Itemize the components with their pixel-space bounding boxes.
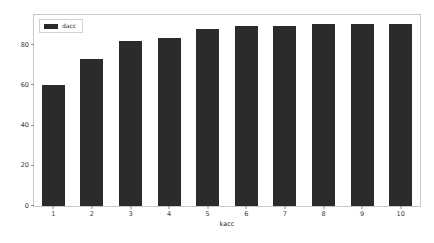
bar xyxy=(389,24,412,206)
chart-axes: 020406080 12345678910 dacc xyxy=(33,14,421,207)
y-tick-label: 60 xyxy=(21,82,34,89)
bar-slot xyxy=(227,15,266,206)
bar-slot xyxy=(266,15,305,206)
bar xyxy=(312,24,335,206)
legend-swatch-dacc xyxy=(44,24,58,29)
bar-slot xyxy=(343,15,382,206)
bar-slot xyxy=(304,15,343,206)
x-tick-mark xyxy=(323,206,324,209)
x-tick-mark xyxy=(284,206,285,209)
x-tick-mark xyxy=(130,206,131,209)
chart-legend: dacc xyxy=(39,19,83,33)
bar-slot xyxy=(150,15,189,206)
bar xyxy=(273,26,296,206)
bar-slot xyxy=(111,15,150,206)
bar xyxy=(158,38,181,206)
x-tick-mark xyxy=(207,206,208,209)
x-tick-mark xyxy=(91,206,92,209)
bar xyxy=(119,41,142,206)
y-tick-label: 80 xyxy=(21,42,34,49)
x-tick-mark xyxy=(169,206,170,209)
y-tick-label: 0 xyxy=(25,203,34,210)
bar xyxy=(80,59,103,206)
bar xyxy=(351,24,374,206)
bar-slot xyxy=(188,15,227,206)
bar-slot xyxy=(381,15,420,206)
x-tick-mark xyxy=(53,206,54,209)
bar-slot xyxy=(34,15,73,206)
legend-label-dacc: dacc xyxy=(62,23,76,29)
figure: 020406080 12345678910 dacc kacc xyxy=(0,0,434,243)
bar xyxy=(42,85,65,206)
x-tick-mark xyxy=(246,206,247,209)
bar xyxy=(235,26,258,206)
bar xyxy=(196,29,219,206)
x-tick-mark xyxy=(400,206,401,209)
y-tick-label: 20 xyxy=(21,163,34,170)
x-tick-mark xyxy=(362,206,363,209)
y-tick-label: 40 xyxy=(21,122,34,129)
x-axis-label: kacc xyxy=(33,221,421,228)
bar-slot xyxy=(73,15,112,206)
